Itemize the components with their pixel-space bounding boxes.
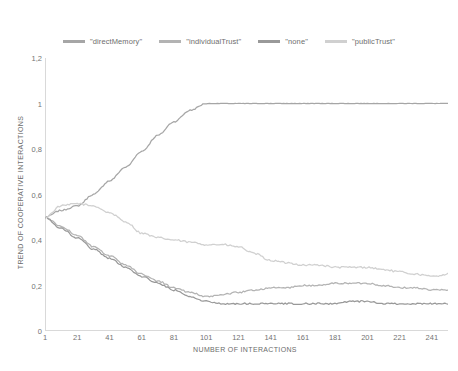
x-tick-label: 1 bbox=[30, 333, 60, 342]
x-tick-label: 201 bbox=[352, 333, 382, 342]
x-tick-label: 181 bbox=[320, 333, 350, 342]
x-tick-label: 101 bbox=[191, 333, 221, 342]
x-tick-label: 141 bbox=[256, 333, 286, 342]
x-axis-tick-labels: 121416181101121141161181201221241 bbox=[0, 0, 458, 371]
x-tick-label: 121 bbox=[223, 333, 253, 342]
x-tick-label: 241 bbox=[417, 333, 447, 342]
bottom-caption bbox=[8, 361, 268, 371]
x-tick-label: 221 bbox=[385, 333, 415, 342]
line-chart-figure: "directMemory" "individualTrust" "none" … bbox=[0, 0, 458, 371]
x-tick-label: 161 bbox=[288, 333, 318, 342]
x-axis-title: NUMBER OF INTERACTIONS bbox=[45, 346, 445, 353]
x-tick-label: 81 bbox=[159, 333, 189, 342]
x-tick-label: 61 bbox=[127, 333, 157, 342]
x-tick-label: 21 bbox=[62, 333, 92, 342]
x-tick-label: 41 bbox=[94, 333, 124, 342]
